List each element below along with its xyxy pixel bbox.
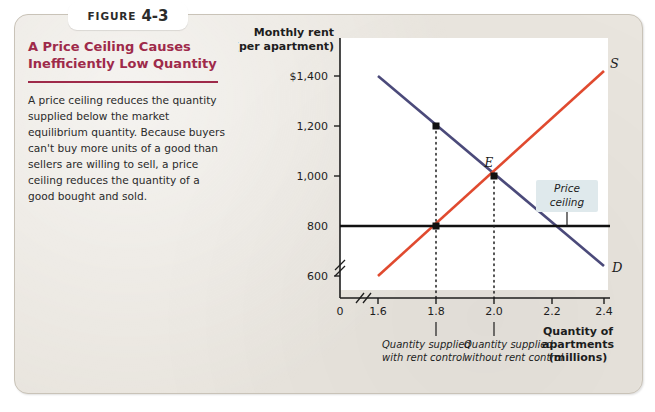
equilibrium-marker (491, 173, 498, 180)
supply-curve-label: S (610, 56, 619, 71)
y-tick-600: 600 (307, 270, 340, 283)
supply-at-ceiling-marker (433, 223, 440, 230)
y-tick-label-800: 800 (307, 220, 328, 233)
caption-column: A Price Ceiling Causes Inefficiently Low… (28, 38, 228, 204)
demand-curve-label: D (611, 260, 623, 275)
figure-caption: A price ceiling reduces the quantity sup… (28, 92, 228, 205)
demand-at-ceiling-marker (433, 123, 440, 130)
x-axis-title-line2: apartments (542, 338, 614, 351)
annotation-without-rent-control-line1: Quantity supplied (464, 339, 553, 350)
x-tick-label-1-8: 1.8 (427, 305, 445, 318)
price-ceiling-callout-line2: ceiling (550, 196, 585, 208)
x-tick-label-2-4: 2.4 (595, 305, 613, 318)
title-divider (28, 81, 218, 83)
y-tick-800: 800 (307, 220, 328, 233)
y-tick-1400: $1,400 (290, 70, 341, 83)
x-axis-title-line1: Quantity of (543, 325, 613, 338)
y-tick-label-1200: 1,200 (297, 120, 329, 133)
x-axis-title-line3: (millions) (549, 351, 608, 364)
y-tick-label-1000: 1,000 (297, 170, 329, 183)
x-tick-2-4: 2.4 (595, 298, 613, 318)
y-axis-title-line1: Monthly rent (254, 26, 334, 39)
x-tick-1-6: 1.6 (369, 298, 387, 318)
x-tick-label-1-6: 1.6 (369, 305, 387, 318)
figure-number-tab: Figure 4-3 (68, 2, 188, 30)
figure-root: Figure 4-3 A Price Ceiling Causes Ineffi… (0, 0, 655, 412)
y-axis-title-line2: (per apartment) (238, 40, 334, 53)
annotation-with-rent-control-line1: Quantity supplied (382, 339, 471, 350)
plot-background (340, 38, 608, 290)
x-tick-2-0: 2.0 (485, 298, 503, 318)
price-ceiling-callout-line1: Price (554, 182, 580, 194)
x-tick-1-8: 1.8 (427, 298, 445, 318)
y-tick-label-600: 600 (307, 270, 328, 283)
chart-area: Monthly rent (per apartment) $1,400 (238, 20, 638, 380)
y-tick-label-1400: $1,400 (290, 70, 329, 83)
x-axis-title: Quantity of apartments (millions) (542, 325, 614, 364)
x-tick-2-2: 2.2 (543, 298, 561, 318)
annotation-with-rent-control-line2: with rent control (382, 352, 465, 363)
equilibrium-label: E (484, 156, 494, 170)
figure-title: A Price Ceiling Causes Inefficiently Low… (28, 38, 228, 72)
supply-demand-chart: Monthly rent (per apartment) $1,400 (238, 20, 638, 380)
x-tick-label-2-0: 2.0 (485, 305, 503, 318)
x-origin-label: 0 (337, 305, 344, 318)
y-tick-1000: 1,000 (297, 170, 341, 183)
annotation-with-rent-control: Quantity supplied with rent control (382, 339, 471, 363)
figure-label-word: Figure (88, 10, 137, 22)
x-tick-label-2-2: 2.2 (543, 305, 561, 318)
figure-number: 4-3 (141, 7, 168, 25)
y-tick-1200: 1,200 (297, 120, 341, 133)
